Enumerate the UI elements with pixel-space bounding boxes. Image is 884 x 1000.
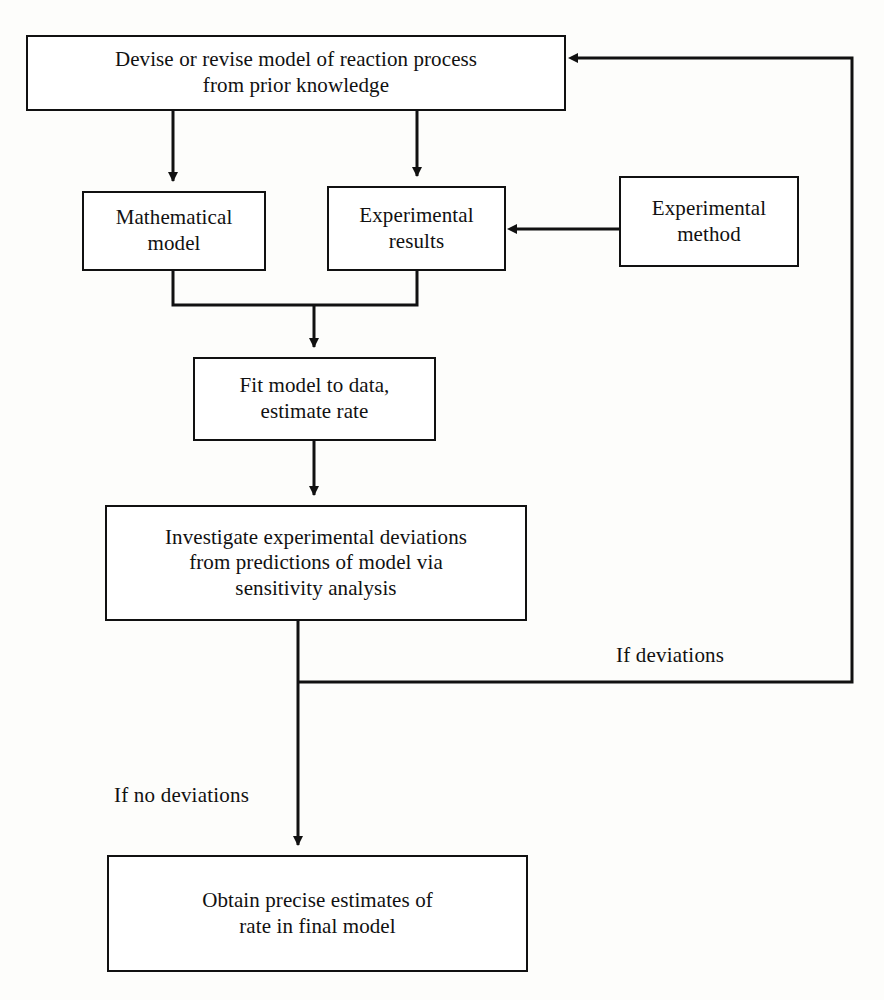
node-experimental-method[interactable]: Experimental method [619, 176, 799, 267]
connector-math-model-to-fit-model [173, 271, 314, 305]
node-fit-model-label: Fit model to data, estimate rate [234, 373, 396, 424]
node-experimental-results[interactable]: Experimental results [327, 186, 506, 271]
node-fit-model-to-data[interactable]: Fit model to data, estimate rate [193, 357, 436, 441]
node-experimental-method-label: Experimental method [646, 196, 772, 247]
connector-layer [0, 0, 884, 1000]
node-obtain-label: Obtain precise estimates of rate in fina… [196, 888, 439, 939]
node-experimental-results-label: Experimental results [353, 203, 479, 254]
node-obtain-precise-estimates[interactable]: Obtain precise estimates of rate in fina… [107, 855, 528, 972]
node-investigate-label: Investigate experimental deviations from… [159, 525, 473, 602]
edge-label-if-no-deviations: If no deviations [114, 785, 249, 806]
connector-exp-results-to-fit-model [314, 271, 417, 305]
flowchart-canvas: Devise or revise model of reaction proce… [0, 0, 884, 1000]
node-devise-or-revise-model[interactable]: Devise or revise model of reaction proce… [26, 35, 566, 111]
node-devise-label: Devise or revise model of reaction proce… [109, 47, 483, 98]
node-investigate-deviations[interactable]: Investigate experimental deviations from… [105, 505, 527, 621]
node-mathematical-model-label: Mathematical model [110, 205, 239, 256]
node-mathematical-model[interactable]: Mathematical model [82, 191, 266, 271]
edge-label-if-deviations: If deviations [616, 645, 724, 666]
